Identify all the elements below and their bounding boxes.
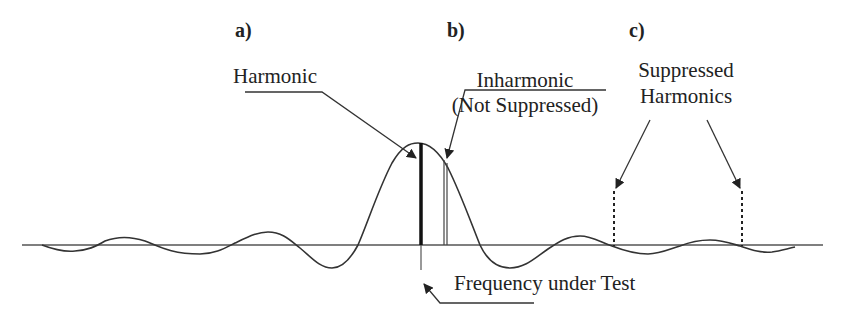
inharmonic-label-line2: (Not Suppressed) (440, 95, 610, 116)
suppressed-arrow-left (616, 120, 650, 188)
suppressed-arrow-right (707, 120, 740, 188)
spectral-response-diagram: a) b) c) Harmonic Inharmonic (Not Suppre… (0, 0, 846, 318)
panel-label-a: a) (235, 20, 252, 40)
harmonic-leader (245, 92, 416, 158)
suppressed-harmonics-label: Suppressed Harmonics (616, 60, 756, 107)
panel-label-b: b) (447, 20, 465, 40)
harmonic-label: Harmonic (233, 66, 317, 87)
response-curve (42, 143, 795, 268)
inharmonic-label: Inharmonic (Not Suppressed) (440, 70, 610, 116)
panel-label-c: c) (629, 20, 645, 40)
inharmonic-label-line1: Inharmonic (440, 70, 610, 91)
suppressed-label-line2: Harmonics (616, 86, 756, 107)
diagram-graphics (0, 0, 846, 318)
frequency-under-test-label: Frequency under Test (454, 273, 635, 294)
suppressed-label-line1: Suppressed (616, 60, 756, 81)
